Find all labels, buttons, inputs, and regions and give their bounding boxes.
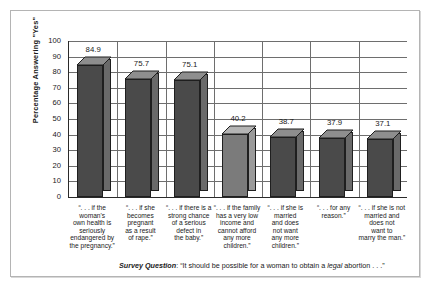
bar-top-face: [77, 56, 113, 66]
bar-top-face: [222, 125, 258, 135]
bar-side-face: [296, 131, 304, 191]
caption-prefix: Survey Question: [119, 261, 176, 270]
caption-text-after: abortion . . .”: [342, 261, 384, 270]
y-tick-label-10: 10: [35, 176, 61, 186]
category-label-4: “. . . if the familyhas a very lowincome…: [213, 204, 261, 250]
gridline-80: [69, 72, 407, 73]
bar-3[interactable]: [174, 80, 200, 197]
y-tick-label-100: 100: [35, 36, 61, 46]
bar-side-face: [345, 132, 353, 191]
bar-top-face: [367, 130, 403, 140]
bar-value-label-1: 84.9: [63, 45, 123, 54]
bar-front-face: [174, 80, 200, 197]
bar-front-face: [222, 134, 248, 197]
category-label-5: “. . . if she ismarriedand doesnot wanta…: [261, 204, 309, 250]
category-label-2: “. . . if shebecomespregnantas a resulto…: [116, 204, 164, 242]
bar-value-label-3: 75.1: [160, 60, 220, 69]
y-tick-label-40: 40: [35, 130, 61, 140]
category-label-3: “. . . if there is astrong chanceof a se…: [165, 204, 213, 242]
bar-side-face: [200, 74, 208, 191]
y-tick-label-80: 80: [35, 67, 61, 77]
caption-emphasis: legal: [327, 261, 342, 270]
bar-value-label-7: 37.1: [353, 119, 413, 128]
bar-side-face: [151, 73, 159, 191]
y-tick-label-20: 20: [35, 161, 61, 171]
bar-side-face: [103, 59, 111, 191]
category-label-6: “. . . for anyreason.”: [309, 204, 357, 219]
category-label-7: “. . . if she is notmarried anddoes notw…: [358, 204, 406, 242]
y-tick-label-60: 60: [35, 98, 61, 108]
bar-front-face: [319, 138, 345, 197]
chart-figure: Percentage Answering "Yes" 1009080706050…: [0, 0, 430, 288]
y-tick-label-0: 0: [35, 192, 61, 202]
gridline-70: [69, 88, 407, 89]
y-tick-label-70: 70: [35, 83, 61, 93]
bar-front-face: [367, 139, 393, 197]
y-tick-label-50: 50: [35, 114, 61, 124]
bar-front-face: [77, 65, 103, 197]
gridline-100: [69, 41, 407, 42]
bar-top-face: [174, 71, 210, 81]
bar-front-face: [125, 79, 151, 197]
y-tick-label-90: 90: [35, 52, 61, 62]
bar-top-face: [319, 129, 355, 139]
gridline-60: [69, 103, 407, 104]
bar-5[interactable]: [270, 137, 296, 197]
gridline-90: [69, 57, 407, 58]
chart-caption: Survey Question: “It should be possible …: [119, 261, 419, 270]
bar-top-face: [125, 70, 161, 80]
bar-top-face: [270, 128, 306, 138]
bar-1[interactable]: [77, 65, 103, 197]
bar-2[interactable]: [125, 79, 151, 197]
y-axis-tick-labels: 1009080706050403020100: [35, 11, 61, 288]
bar-4[interactable]: [222, 134, 248, 197]
caption-text-before: “It should be possible for a woman to ob…: [180, 261, 327, 270]
bar-side-face: [393, 133, 401, 191]
bar-side-face: [248, 128, 256, 191]
bar-6[interactable]: [319, 138, 345, 197]
y-tick-label-30: 30: [35, 145, 61, 155]
category-label-1: “. . . if thewoman'sown health isserious…: [68, 204, 116, 250]
chart-frame: Percentage Answering "Yes" 1009080706050…: [10, 10, 420, 277]
bar-7[interactable]: [367, 139, 393, 197]
bar-front-face: [270, 137, 296, 197]
